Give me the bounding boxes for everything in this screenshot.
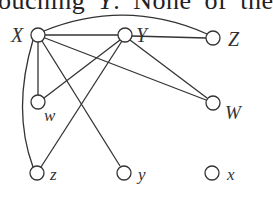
graph-edges <box>23 15 208 167</box>
label-Z: Z <box>228 28 240 50</box>
label-W: W <box>225 102 243 123</box>
node-Y <box>118 28 132 42</box>
label-X: X <box>10 24 24 46</box>
node-w <box>31 95 45 109</box>
edge-X-W <box>45 38 206 100</box>
label-Y: Y <box>136 24 149 46</box>
node-Z <box>206 31 220 45</box>
node-X <box>31 28 45 42</box>
label-y: y <box>136 165 146 184</box>
edge-Y-w <box>44 40 120 98</box>
node-y <box>117 166 131 180</box>
graph-nodes <box>30 28 220 180</box>
node-W <box>206 96 220 110</box>
edge-Y-W <box>130 40 207 98</box>
node-x <box>205 166 219 180</box>
node-z <box>30 166 44 180</box>
label-x: x <box>226 165 235 184</box>
label-w: w <box>44 106 56 125</box>
graph-diagram: X Y Z w W z y x <box>0 0 273 199</box>
label-z: z <box>49 165 57 184</box>
